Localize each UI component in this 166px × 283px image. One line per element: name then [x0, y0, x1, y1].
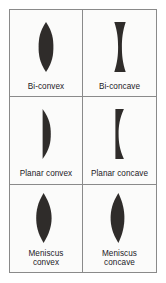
caption-line: Bi-concave [83, 82, 156, 92]
lens-illustration-stage [10, 10, 82, 82]
lens-cell-meniscus-concave: Meniscus concave [83, 185, 156, 272]
meniscus-concave-lens-icon [105, 192, 135, 244]
lens-illustration-stage [83, 97, 156, 169]
lens-cell-bi-convex: Bi-convex [10, 10, 83, 97]
lens-cell-caption: Meniscus convex [10, 249, 82, 272]
caption-line: concave [83, 258, 156, 268]
caption-line: Planar concave [83, 169, 156, 179]
lens-illustration-stage [10, 97, 82, 169]
planar-convex-lens-icon [31, 108, 61, 160]
caption-line: Planar convex [10, 169, 82, 179]
lens-cell-caption: Planar convex [10, 169, 82, 184]
meniscus-convex-lens-icon [31, 192, 61, 244]
lens-cell-caption: Meniscus concave [83, 249, 156, 272]
lens-illustration-stage [10, 185, 82, 249]
lens-cell-planar-concave: Planar concave [83, 97, 156, 184]
caption-line: convex [10, 258, 82, 268]
lens-cell-meniscus-convex: Meniscus convex [10, 185, 83, 272]
lens-types-diagram: Bi-convex Bi-concave Planar convex [9, 9, 157, 273]
bi-concave-lens-icon [105, 21, 135, 73]
lens-cell-caption: Bi-concave [83, 82, 156, 97]
caption-line: Meniscus [83, 249, 156, 259]
bi-convex-lens-icon [31, 21, 61, 73]
planar-concave-lens-icon [105, 108, 135, 160]
lens-cell-caption: Planar concave [83, 169, 156, 184]
lens-cell-bi-concave: Bi-concave [83, 10, 156, 97]
lens-cell-caption: Bi-convex [10, 82, 82, 97]
caption-line: Meniscus [10, 249, 82, 259]
caption-line: Bi-convex [10, 82, 82, 92]
lens-illustration-stage [83, 185, 156, 249]
lens-cell-planar-convex: Planar convex [10, 97, 83, 184]
lens-illustration-stage [83, 10, 156, 82]
